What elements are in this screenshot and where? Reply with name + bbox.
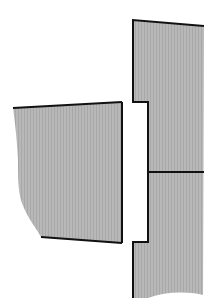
diagram-canvas — [0, 0, 212, 298]
right-block-fill — [133, 20, 204, 298]
left-block-fill — [13, 102, 122, 243]
right-block — [133, 20, 204, 298]
left-block — [13, 102, 122, 243]
